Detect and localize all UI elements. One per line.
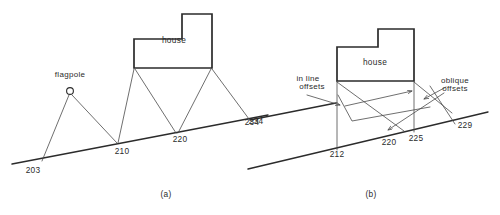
panel-b-station-220: 220: [382, 137, 397, 147]
panel-a-station-220: 220: [173, 134, 188, 144]
panel-b-survey-line: [248, 112, 488, 169]
panel-a-caption: (a): [160, 189, 171, 199]
figure-canvas: house flagpole 203 210 220 234 (a): [0, 0, 500, 215]
panel-b: house in line offsets oblique offsets 23…: [248, 29, 488, 199]
panel-a-house-label: house: [162, 35, 186, 45]
panel-b-house-label: house: [363, 57, 387, 67]
panel-b-annotation-in-line-offsets: offsets: [299, 82, 325, 91]
panel-a-flagpole-label: flagpole: [55, 70, 86, 79]
panel-b-annotation-oblique-offsets: offsets: [442, 84, 468, 93]
panel-b-station-229: 229: [458, 120, 473, 130]
panel-b-station-212: 212: [330, 149, 345, 159]
panel-b-pointer-arrow-right: [345, 91, 412, 106]
panel-b-house-outline: [337, 29, 414, 81]
panel-b-oblique-offset-crossing-b: [338, 95, 430, 121]
panel-a-tie-flagpole-to-203: [42, 95, 69, 161]
panel-a: house flagpole 203 210 220 234 (a): [12, 14, 268, 199]
panel-a-tie-flagpole-to-210: [72, 95, 117, 143]
panel-a-flagpole-marker: [67, 88, 74, 95]
panel-a-tie-house-right-to-234: [212, 69, 249, 119]
panel-b-station-225: 225: [409, 133, 424, 143]
panel-b-caption: (b): [365, 189, 376, 199]
panel-b-oblique-offset-left-to-220: [337, 82, 404, 131]
panel-a-tie-house-left-to-210: [118, 69, 134, 143]
panel-a-station-210: 210: [115, 146, 130, 156]
panel-b-station-234: 234: [249, 116, 264, 126]
survey-figure: house flagpole 203 210 220 234 (a): [0, 0, 500, 215]
panel-a-tie-house-right-to-220: [178, 69, 211, 133]
panel-b-leader-inline-offsets: [307, 95, 340, 105]
panel-a-tie-house-left-to-220: [135, 69, 176, 133]
panel-a-station-203: 203: [26, 165, 41, 175]
